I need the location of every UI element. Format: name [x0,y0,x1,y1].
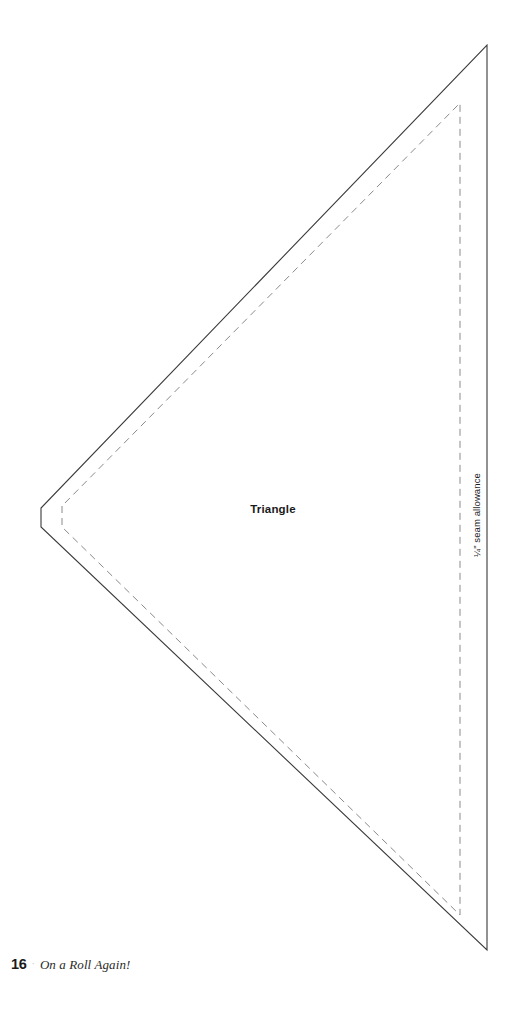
footer-separator-dot: · [32,959,35,969]
seam-allowance-label: ¼" seam allowance [472,473,482,557]
cutting-line-outline [41,45,487,950]
footer-book-title: On a Roll Again! [40,958,131,971]
template-page: Triangle ¼" seam allowance 16 · On a Rol… [0,0,509,1029]
footer-page-number: 16 [11,957,27,972]
piece-label: Triangle [213,504,333,516]
page-footer: 16 · On a Roll Again! [11,957,130,972]
